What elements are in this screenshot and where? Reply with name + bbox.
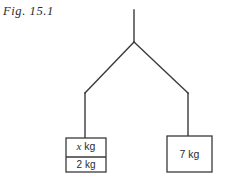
left-block-upper-unit: kg (81, 140, 95, 152)
left-block-upper-label: x kg (66, 141, 106, 152)
right-diagonal-string (134, 42, 188, 93)
figure-container: Fig. 15.1 x kg 2 kg 7 kg (0, 0, 229, 183)
right-block-label: 7 kg (167, 149, 212, 160)
left-diagonal-string (85, 42, 134, 93)
left-block-lower-label: 2 kg (66, 160, 106, 170)
